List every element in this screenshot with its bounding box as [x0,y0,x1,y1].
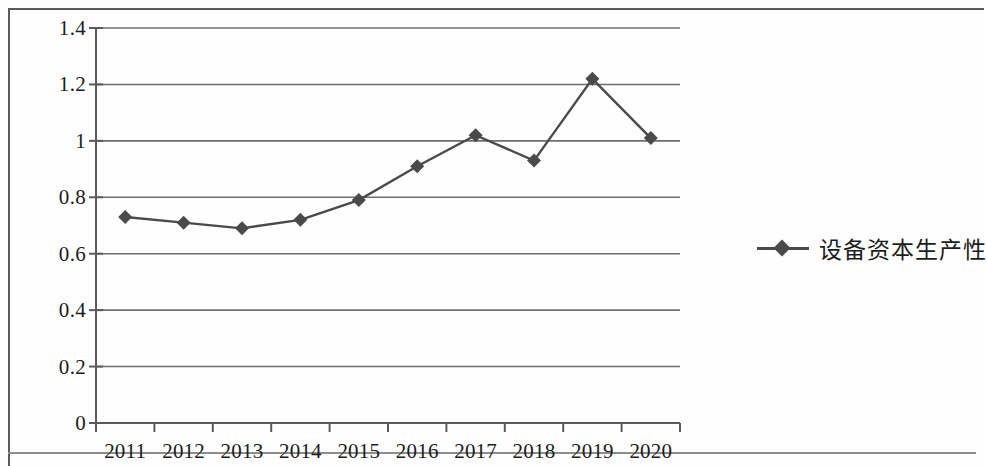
legend-marker-icon [757,240,809,256]
x-axis-tick-label: 2020 [629,439,672,464]
data-point-marker [118,210,132,224]
y-axis-tick-label: 1.2 [59,72,86,97]
y-axis-tick-label: 0.4 [59,298,86,323]
y-axis-tick-label: 0 [75,411,86,436]
x-axis-tick-label: 2012 [162,439,205,464]
x-axis-ticks [96,423,680,432]
y-axis-tick-label: 1.4 [59,16,86,41]
series-markers [118,72,658,236]
data-point-marker [293,213,307,227]
chart-legend: 设备资本生产性 [757,231,987,265]
x-axis-tick-label: 2018 [513,439,556,464]
y-axis-tick-label: 0.2 [59,354,86,379]
data-point-marker [235,221,249,235]
x-axis-tick-label: 2013 [221,439,264,464]
x-axis-tick-label: 2017 [454,439,497,464]
data-point-marker [177,216,191,230]
x-axis-tick-label: 2015 [337,439,380,464]
x-axis-tick-label: 2019 [571,439,614,464]
x-axis-tick-label: 2014 [279,439,322,464]
x-axis-tick-label: 2016 [396,439,439,464]
x-axis-tick-label: 2011 [104,439,146,464]
legend-label: 设备资本生产性 [819,231,987,265]
data-point-marker [352,193,366,207]
y-axis-tick-label: 1 [75,128,86,153]
y-axis-tick-label: 0.8 [59,185,86,210]
series-line-path [125,79,651,229]
y-axis-tick-label: 0.6 [59,241,86,266]
data-point-marker [410,159,424,173]
series-line [125,79,651,229]
